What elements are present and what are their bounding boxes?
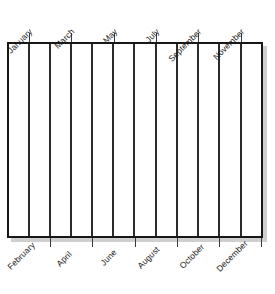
- axis-tick-bottom: [92, 238, 93, 247]
- axis-tick-bottom: [177, 238, 178, 247]
- gridline: [197, 44, 199, 236]
- axis-tick-bottom: [219, 238, 220, 247]
- plot-area: [7, 42, 263, 238]
- gridline: [240, 44, 242, 236]
- axis-tick-bottom: [261, 238, 262, 247]
- gridline: [218, 44, 220, 236]
- month-grid-chart: January March May July September Novembe…: [0, 0, 275, 294]
- gridline: [112, 44, 114, 236]
- gridline: [155, 44, 157, 236]
- axis-tick-bottom: [135, 238, 136, 247]
- gridline: [49, 44, 51, 236]
- gridline: [70, 44, 72, 236]
- gridline: [28, 44, 30, 236]
- gridline: [133, 44, 135, 236]
- axis-tick-bottom: [50, 238, 51, 247]
- gridline: [91, 44, 93, 236]
- gridline: [176, 44, 178, 236]
